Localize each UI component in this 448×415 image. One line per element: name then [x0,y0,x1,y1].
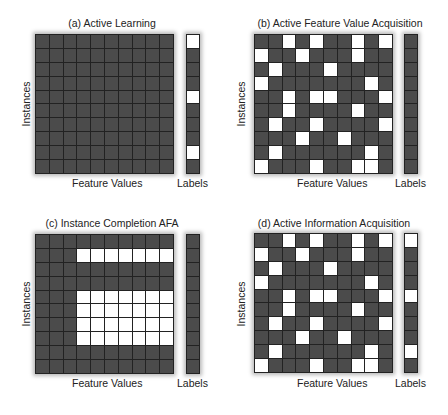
missing-value-cell [324,331,337,344]
known-value-cell [365,160,378,173]
labels-column [404,233,418,373]
missing-value-cell [105,360,118,373]
known-value-cell [269,262,282,275]
known-value-cell [119,249,132,262]
missing-value-cell [146,360,159,373]
missing-value-cell [324,160,337,173]
missing-value-cell [50,49,63,62]
known-value-cell [269,317,282,330]
known-value-cell [105,318,118,331]
missing-value-cell [105,49,118,62]
known-value-cell [296,49,309,62]
missing-value-cell [352,317,365,330]
missing-value-cell [269,77,282,90]
missing-value-cell [338,146,351,159]
missing-value-cell [119,49,132,62]
known-value-cell [310,35,323,48]
missing-value-cell [105,263,118,276]
known-value-cell [379,91,392,104]
missing-value-cell [324,77,337,90]
missing-value-cell [50,118,63,131]
missing-value-cell [91,160,104,173]
x-axis-label: Feature Values [72,177,142,189]
known-value-cell [269,345,282,358]
known-value-cell [269,63,282,76]
missing-value-cell [64,160,77,173]
missing-value-cell [296,118,309,131]
missing-value-cell [160,263,173,276]
missing-value-cell [91,35,104,48]
missing-value-cell [36,263,49,276]
feature-matrix [254,34,393,174]
known-label-cell [405,345,417,358]
missing-value-cell [91,146,104,159]
known-value-cell [283,303,296,316]
missing-value-cell [105,235,118,248]
missing-value-cell [50,91,63,104]
missing-value-cell [119,63,132,76]
missing-value-cell [255,63,268,76]
missing-value-cell [324,303,337,316]
missing-value-cell [324,317,337,330]
known-value-cell [379,35,392,48]
known-value-cell [146,249,159,262]
missing-label-cell [405,303,417,316]
missing-value-cell [310,248,323,261]
missing-value-cell [365,104,378,117]
missing-value-cell [146,277,159,290]
missing-value-cell [146,132,159,145]
missing-value-cell [77,77,90,90]
missing-label-cell [405,49,417,62]
missing-value-cell [338,262,351,275]
missing-value-cell [269,234,282,247]
missing-value-cell [91,63,104,76]
missing-value-cell [324,248,337,261]
known-value-cell [160,291,173,304]
missing-value-cell [133,346,146,359]
missing-value-cell [77,104,90,117]
missing-value-cell [352,77,365,90]
missing-value-cell [352,146,365,159]
known-value-cell [365,345,378,358]
missing-value-cell [133,49,146,62]
known-value-cell [160,304,173,317]
missing-value-cell [36,91,49,104]
missing-value-cell [64,35,77,48]
labels-caption: Labels [395,377,426,389]
missing-value-cell [296,234,309,247]
missing-value-cell [64,263,77,276]
missing-value-cell [146,91,159,104]
missing-value-cell [64,277,77,290]
missing-value-cell [36,360,49,373]
missing-value-cell [119,146,132,159]
missing-value-cell [310,63,323,76]
missing-value-cell [36,318,49,331]
missing-value-cell [310,104,323,117]
missing-value-cell [365,91,378,104]
missing-value-cell [64,63,77,76]
known-value-cell [133,304,146,317]
missing-value-cell [338,63,351,76]
missing-value-cell [64,318,77,331]
missing-value-cell [50,146,63,159]
missing-value-cell [91,118,104,131]
missing-value-cell [91,77,104,90]
known-value-cell [324,262,337,275]
missing-value-cell [105,160,118,173]
known-value-cell [379,290,392,303]
missing-value-cell [255,132,268,145]
missing-value-cell [283,262,296,275]
missing-value-cell [324,345,337,358]
known-value-cell [269,146,282,159]
missing-value-cell [379,345,392,358]
known-value-cell [352,160,365,173]
missing-label-cell [187,263,199,276]
missing-value-cell [269,303,282,316]
missing-value-cell [133,91,146,104]
feature-matrix [35,234,174,374]
missing-value-cell [77,346,90,359]
missing-value-cell [365,262,378,275]
missing-value-cell [64,235,77,248]
known-label-cell [405,290,417,303]
known-value-cell [146,332,159,345]
